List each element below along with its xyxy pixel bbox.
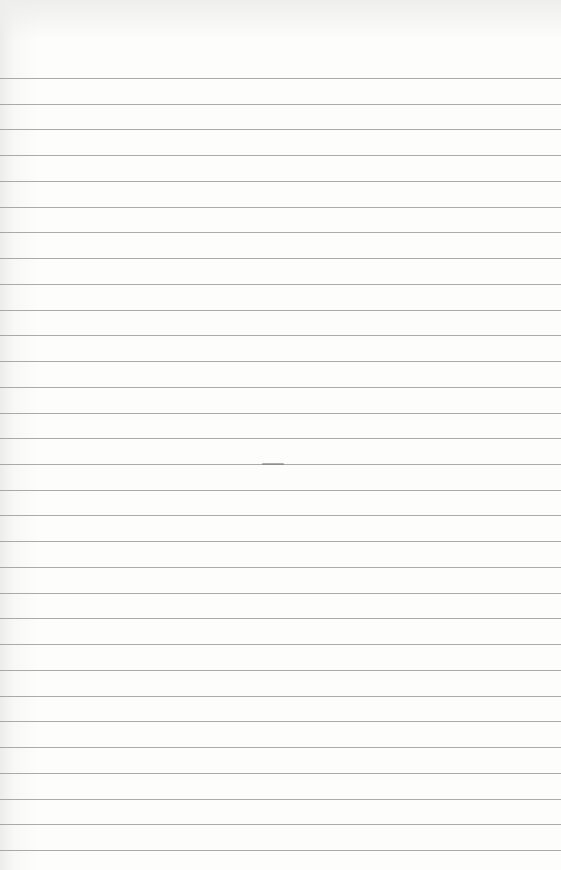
ruled-line [0,773,561,774]
ruled-line [0,490,561,491]
ruled-line [0,232,561,233]
ruled-line [0,644,561,645]
ruled-line [0,104,561,105]
ruled-line [0,438,561,439]
ruled-line [0,618,561,619]
ruled-line [0,207,561,208]
ruled-line [0,155,561,156]
ruled-line [0,284,561,285]
ruled-line [0,567,561,568]
ruled-line [0,721,561,722]
top-shadow [0,0,561,40]
lined-paper [0,0,561,870]
ruled-line [0,747,561,748]
ruled-line [0,670,561,671]
ruled-line [0,129,561,130]
ruled-line [0,515,561,516]
ruled-line [0,799,561,800]
ruled-line [0,541,561,542]
ruled-line [0,258,561,259]
ruled-line [0,181,561,182]
ruled-line [0,361,561,362]
ruled-line [0,413,561,414]
ruled-line [0,387,561,388]
ruled-line [0,696,561,697]
ruled-line [0,310,561,311]
pencil-smudge [262,463,284,465]
ruled-line [0,78,561,79]
ruled-line [0,850,561,851]
ruled-line [0,335,561,336]
ruled-line [0,824,561,825]
ruled-line [0,593,561,594]
